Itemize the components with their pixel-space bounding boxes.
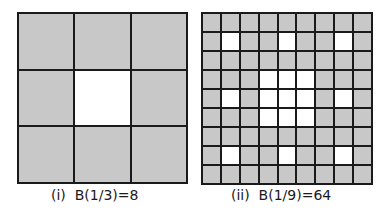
grid-cell-filled — [354, 14, 371, 31]
grid-cell-removed — [222, 90, 239, 107]
grid-cell-removed — [279, 109, 296, 126]
grid-cell-filled — [316, 128, 333, 145]
grid-cell-filled — [222, 128, 239, 145]
grid-cell-filled — [279, 166, 296, 183]
carpet-grid-level-1 — [17, 12, 188, 184]
grid-cell-filled — [132, 71, 186, 126]
grid-cell-filled — [19, 71, 73, 126]
grid-cell-filled — [241, 128, 258, 145]
grid-cell-filled — [241, 14, 258, 31]
grid-cell-filled — [132, 127, 186, 182]
grid-cell-filled — [354, 52, 371, 69]
grid-cell-filled — [297, 147, 314, 164]
grid-cell-filled — [75, 14, 129, 69]
grid-cell-filled — [260, 52, 277, 69]
grid-cell-filled — [203, 71, 220, 88]
grid-cell-filled — [241, 71, 258, 88]
grid-cell-filled — [241, 147, 258, 164]
grid-cell-filled — [316, 71, 333, 88]
grid-cell-filled — [297, 33, 314, 50]
grid-cell-filled — [203, 109, 220, 126]
grid-cell-filled — [19, 14, 73, 69]
grid-cell-filled — [335, 52, 352, 69]
grid-cell-filled — [241, 109, 258, 126]
grid-cell-filled — [279, 14, 296, 31]
grid-cell-filled — [279, 52, 296, 69]
grid-cell-filled — [260, 147, 277, 164]
grid-cell-filled — [222, 52, 239, 69]
grid-cell-filled — [260, 166, 277, 183]
grid-cell-filled — [241, 90, 258, 107]
grid-cell-filled — [260, 33, 277, 50]
grid-cell-filled — [316, 147, 333, 164]
grid-cell-removed — [279, 147, 296, 164]
grid-cell-removed — [297, 90, 314, 107]
grid-cell-filled — [203, 33, 220, 50]
grid-cell-filled — [297, 14, 314, 31]
grid-cell-filled — [316, 14, 333, 31]
grid-cell-filled — [297, 166, 314, 183]
grid-cell-filled — [222, 166, 239, 183]
grid-cell-filled — [260, 128, 277, 145]
grid-cell-filled — [316, 166, 333, 183]
grid-cell-filled — [354, 166, 371, 183]
grid-cell-removed — [222, 33, 239, 50]
grid-cell-filled — [316, 90, 333, 107]
grid-cell-removed — [335, 147, 352, 164]
grid-cell-removed — [260, 71, 277, 88]
grid-cell-removed — [260, 90, 277, 107]
grid-cell-removed — [279, 33, 296, 50]
caption-level-2: (ii) B(1/9)=64 — [231, 187, 331, 203]
grid-cell-removed — [297, 71, 314, 88]
grid-cell-filled — [335, 71, 352, 88]
grid-cell-filled — [241, 33, 258, 50]
grid-cell-filled — [354, 147, 371, 164]
grid-cell-filled — [203, 14, 220, 31]
grid-cell-filled — [335, 128, 352, 145]
grid-cell-filled — [75, 127, 129, 182]
grid-cell-filled — [297, 52, 314, 69]
grid-cell-filled — [316, 52, 333, 69]
grid-cell-filled — [222, 14, 239, 31]
grid-cell-removed — [75, 71, 129, 126]
grid-cell-removed — [279, 90, 296, 107]
grid-cell-filled — [222, 109, 239, 126]
grid-cell-filled — [335, 14, 352, 31]
grid-cell-filled — [203, 166, 220, 183]
grid-cell-filled — [203, 90, 220, 107]
grid-cell-filled — [354, 71, 371, 88]
grid-cell-removed — [335, 33, 352, 50]
grid-cell-filled — [241, 52, 258, 69]
grid-cell-filled — [354, 109, 371, 126]
grid-cell-filled — [335, 109, 352, 126]
grid-cell-filled — [316, 109, 333, 126]
grid-cell-filled — [203, 52, 220, 69]
grid-cell-filled — [335, 166, 352, 183]
grid-cell-removed — [222, 147, 239, 164]
grid-cell-removed — [335, 90, 352, 107]
grid-cell-filled — [354, 90, 371, 107]
grid-cell-filled — [203, 147, 220, 164]
grid-cell-removed — [279, 71, 296, 88]
grid-cell-filled — [132, 14, 186, 69]
grid-cell-filled — [203, 128, 220, 145]
grid-cell-filled — [241, 166, 258, 183]
grid-cell-removed — [297, 109, 314, 126]
grid-cell-removed — [260, 109, 277, 126]
grid-cell-filled — [19, 127, 73, 182]
grid-cell-filled — [260, 14, 277, 31]
grid-cell-filled — [297, 128, 314, 145]
grid-cell-filled — [354, 33, 371, 50]
caption-level-1: (i) B(1/3)=8 — [51, 187, 138, 203]
grid-cell-filled — [354, 128, 371, 145]
grid-cell-filled — [316, 33, 333, 50]
grid-cell-filled — [279, 128, 296, 145]
grid-cell-filled — [222, 71, 239, 88]
carpet-grid-level-2 — [201, 12, 373, 185]
